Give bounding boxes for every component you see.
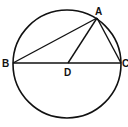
label-a: A: [95, 6, 102, 17]
segment-ac: [97, 18, 121, 63]
circle: [13, 10, 121, 118]
geometry-diagram: A B C D: [0, 0, 128, 127]
segment-ad: [68, 18, 97, 63]
label-d: D: [64, 67, 71, 78]
label-c: C: [122, 58, 128, 69]
segment-ab: [13, 18, 97, 63]
label-b: B: [2, 58, 9, 69]
